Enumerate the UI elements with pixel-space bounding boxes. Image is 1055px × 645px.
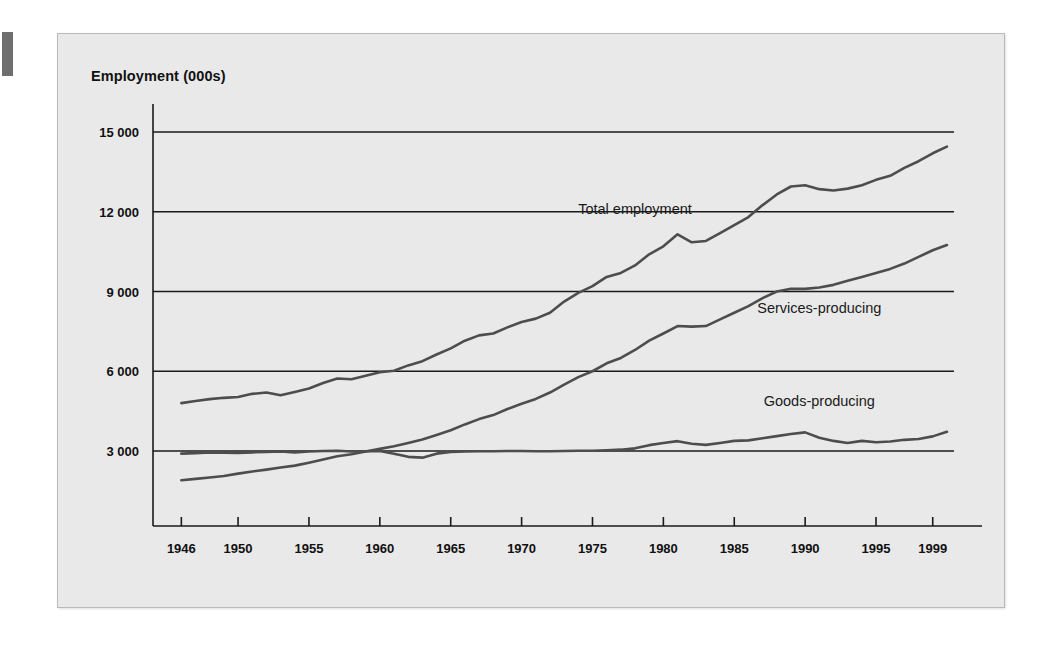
x-tick-label: 1950 bbox=[224, 541, 253, 556]
x-tick-label: 1965 bbox=[436, 541, 465, 556]
x-tick-label: 1970 bbox=[507, 541, 536, 556]
series-line-total-employment bbox=[181, 147, 947, 404]
line-chart-svg: 3 0006 0009 00012 00015 000 194619501955… bbox=[58, 34, 1006, 609]
x-tick-label: 1960 bbox=[365, 541, 394, 556]
y-tick-label: 9 000 bbox=[106, 285, 139, 300]
annotation-services-producing: Services-producing bbox=[757, 300, 881, 316]
x-tick-label: 1980 bbox=[649, 541, 678, 556]
series-line-services-producing bbox=[181, 245, 947, 480]
series-annotations: Total employmentServices-producingGoods-… bbox=[578, 201, 881, 408]
x-axis-tickmarks bbox=[181, 517, 932, 526]
x-axis-tick-labels: 1946195019551960196519701975198019851990… bbox=[167, 541, 947, 556]
x-tick-label: 1999 bbox=[918, 541, 947, 556]
x-tick-label: 1990 bbox=[791, 541, 820, 556]
y-axis-tick-labels: 3 0006 0009 00012 00015 000 bbox=[99, 125, 139, 459]
x-tick-label: 1946 bbox=[167, 541, 196, 556]
y-tick-label: 6 000 bbox=[106, 364, 139, 379]
page-edge-marker bbox=[2, 32, 13, 76]
annotation-goods-producing: Goods-producing bbox=[764, 393, 875, 409]
x-tick-label: 1955 bbox=[294, 541, 323, 556]
y-tick-label: 15 000 bbox=[99, 125, 139, 140]
y-tick-label: 12 000 bbox=[99, 205, 139, 220]
x-tick-label: 1975 bbox=[578, 541, 607, 556]
page-canvas: Employment (000s) 3 0006 0009 00012 0001… bbox=[0, 0, 1055, 645]
annotation-total-employment: Total employment bbox=[578, 201, 692, 217]
plot-area: 3 0006 0009 00012 00015 000 194619501955… bbox=[58, 34, 1006, 609]
figure-panel: Employment (000s) 3 0006 0009 00012 0001… bbox=[57, 33, 1005, 608]
series-line-goods-producing bbox=[181, 432, 947, 458]
y-tick-label: 3 000 bbox=[106, 444, 139, 459]
x-tick-label: 1985 bbox=[720, 541, 749, 556]
x-tick-label: 1995 bbox=[862, 541, 891, 556]
